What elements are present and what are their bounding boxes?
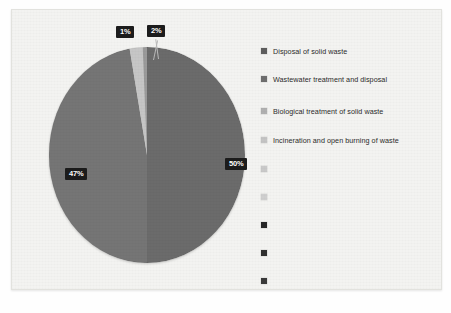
legend-item-9[interactable]	[261, 276, 273, 286]
data-label-incineration-and-open-burning-of-waste: 1%	[116, 26, 134, 38]
legend-item-6[interactable]	[261, 192, 273, 202]
legend-swatch-icon	[261, 108, 267, 114]
legend-item-wastewater-treatment-and-disposal[interactable]: Wastewater treatment and disposal	[261, 74, 387, 84]
legend-swatch-icon	[261, 250, 267, 256]
legend-swatch-icon	[261, 166, 267, 172]
legend-swatch-icon	[261, 194, 267, 200]
pie-slice-disposal-of-solid-waste[interactable]	[147, 47, 245, 263]
legend-item-label: Biological treatment of solid waste	[273, 107, 383, 116]
chart-panel: 1% 2% 47% 50% Disposal of solid waste Wa…	[11, 9, 442, 290]
legend-item-5[interactable]	[261, 164, 273, 174]
legend-swatch-icon	[261, 76, 267, 82]
legend-swatch-icon	[261, 278, 267, 284]
page-root: 1% 2% 47% 50% Disposal of solid waste Wa…	[0, 0, 451, 313]
legend-item-label: Wastewater treatment and disposal	[273, 75, 387, 84]
legend-item-label: Incineration and open burning of waste	[273, 136, 399, 145]
legend-item-disposal-of-solid-waste[interactable]: Disposal of solid waste	[261, 46, 347, 56]
pie-slice-wastewater-treatment-and-disposal[interactable]	[49, 49, 147, 264]
legend-swatch-icon	[261, 48, 267, 54]
legend-swatch-icon	[261, 222, 267, 228]
pie-graphic	[49, 47, 245, 263]
legend-item-7[interactable]	[261, 220, 273, 230]
data-label-disposal-of-solid-waste: 50%	[225, 158, 247, 170]
pie-svg	[49, 47, 245, 263]
legend-swatch-icon	[261, 137, 267, 143]
legend-item-incineration-and-open-burning-of-waste[interactable]: Incineration and open burning of waste	[261, 135, 399, 145]
legend-item-label: Disposal of solid waste	[273, 47, 347, 56]
data-label-wastewater-treatment-and-disposal: 47%	[65, 168, 87, 180]
data-label-biological-treatment-of-solid-waste: 2%	[147, 25, 165, 37]
legend-item-8[interactable]	[261, 248, 273, 258]
legend-item-biological-treatment-of-solid-waste[interactable]: Biological treatment of solid waste	[261, 106, 383, 116]
pie-chart	[49, 47, 249, 265]
